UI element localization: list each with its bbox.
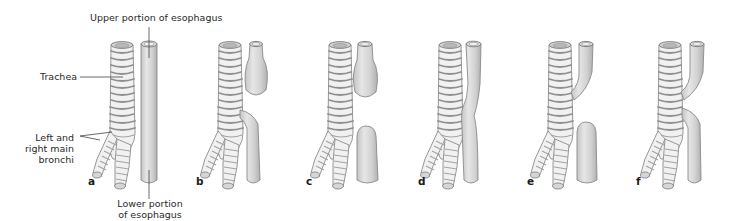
panel-a: a [80,27,157,199]
label-bronchi-3: bronchi [39,154,74,165]
lower-esophageal-pouch [577,122,597,183]
trachea-illustration [421,42,464,189]
lower-esophagus-fistula [240,110,260,183]
panel-label-b: b [196,175,204,187]
label-lower-esophagus-2: of esophagus [118,209,182,220]
panel-label-d: d [418,175,426,187]
label-lower-esophagus-1: Lower portion [117,198,182,209]
panel-label-e: e [527,175,534,187]
trachea-illustration [93,42,136,189]
esophagus-h-fistula [462,41,482,183]
label-trachea: Trachea [39,71,77,82]
label-bronchi-2: right main [25,143,74,154]
bronchi-leader-right [80,132,112,136]
panel-label-f: f [636,175,641,187]
upper-esophageal-pouch [353,41,377,97]
trachea-illustration [311,42,354,189]
panel-b: b [196,41,267,189]
panel-label-a: a [88,175,95,187]
panel-label-c: c [306,175,312,187]
esophageal-atresia-diagram: a Upper portion of esophagus Trachea Lef… [0,0,733,221]
upper-esophagus-fistula [571,41,593,100]
esophagus-continuous [141,41,157,183]
panel-f: f [636,41,704,189]
trachea-illustration [641,42,684,189]
panel-d: d [418,41,481,189]
label-bronchi-1: Left and [35,132,74,143]
upper-esophageal-pouch [245,41,267,95]
trachea-illustration [201,42,244,189]
panel-c: c [306,41,378,189]
lower-esophagus-fistula [682,108,701,183]
bronchi-leader-left [80,136,100,140]
label-upper-esophagus: Upper portion of esophagus [90,12,222,23]
trachea-illustration [531,42,574,189]
lower-esophageal-pouch [357,126,378,183]
upper-esophagus-fistula [681,41,704,100]
panel-e: e [527,41,597,189]
